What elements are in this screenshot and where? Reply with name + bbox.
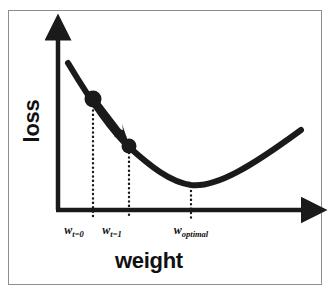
tick-label-w-t0: wt=0: [64, 223, 83, 239]
point-w-t0: [85, 91, 102, 108]
x-axis-title: weight: [115, 248, 183, 274]
tick-sub-w-optimal: optimal: [182, 229, 208, 239]
tick-sub-w-t0: t=0: [72, 229, 83, 239]
tick-sub-w-t1: t=1: [110, 229, 121, 239]
point-w-t1: [122, 139, 137, 154]
tick-label-w-t1: wt=1: [102, 223, 121, 239]
tick-base-w-t0: w: [64, 223, 72, 237]
loss-curve: [68, 63, 301, 185]
tick-label-w-optimal: woptimal: [174, 223, 208, 239]
y-axis-title: loss: [0, 89, 67, 153]
figure-canvas: loss weight wt=0 wt=1 woptimal: [0, 0, 331, 297]
tick-base-w-optimal: w: [174, 223, 182, 237]
tick-base-w-t1: w: [102, 223, 110, 237]
